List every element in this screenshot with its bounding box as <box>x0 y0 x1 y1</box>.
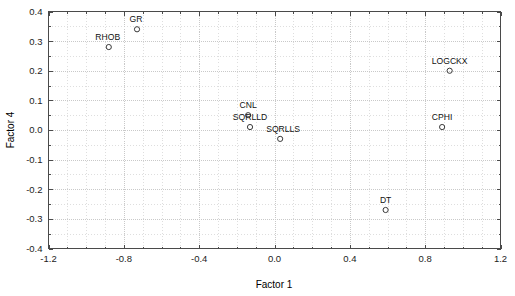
y-tick-label: -0.3 <box>26 213 42 224</box>
y-tick-label: 0.3 <box>29 36 42 47</box>
x-tick-label: 0.0 <box>268 253 281 264</box>
data-point-label: RHOB <box>95 32 120 42</box>
x-tick-label: -0.4 <box>191 253 207 264</box>
data-point-marker <box>134 27 139 32</box>
x-tick-label: -1.2 <box>40 253 56 264</box>
x-tick-label: 0.4 <box>343 253 356 264</box>
x-tick-label: 0.8 <box>419 253 432 264</box>
data-point-marker <box>447 68 452 73</box>
plot-canvas: -1.2-0.8-0.40.00.40.81.2 0.40.30.20.10.0… <box>0 0 515 296</box>
x-tick-label: -0.8 <box>116 253 132 264</box>
y-tick-label: 0.0 <box>29 124 42 135</box>
y-tick-label: -0.1 <box>26 154 42 165</box>
y-axis-title: Factor 4 <box>5 111 16 148</box>
data-point-marker <box>383 207 388 212</box>
data-point-label: CNL <box>240 100 257 110</box>
x-tick-label: 1.2 <box>494 253 507 264</box>
point-labels-group: RHOBGRCNLSQRLLDSQRLLSLOGCKXCPHIDT <box>95 14 467 205</box>
data-points-group <box>106 27 452 213</box>
data-point-label: CPHI <box>432 112 453 122</box>
y-tick-label: 0.2 <box>29 65 42 76</box>
x-axis-title: Factor 1 <box>256 279 293 290</box>
y-tick-label: -0.4 <box>26 243 42 254</box>
data-point-marker <box>278 136 283 141</box>
data-point-marker <box>106 44 111 49</box>
data-point-marker <box>247 124 252 129</box>
y-tick-label: -0.2 <box>26 184 42 195</box>
scatter-plot-figure: -1.2-0.8-0.40.00.40.81.2 0.40.30.20.10.0… <box>0 0 515 296</box>
data-point-label: DT <box>380 195 392 205</box>
data-point-label: LOGCKX <box>432 56 468 66</box>
data-point-label: SQRLLS <box>266 124 300 134</box>
y-tick-label: 0.1 <box>29 95 42 106</box>
x-axis-tick-labels: -1.2-0.8-0.40.00.40.81.2 <box>40 253 507 264</box>
data-point-label: SQRLLD <box>233 112 267 122</box>
data-point-marker <box>440 124 445 129</box>
data-point-label: GR <box>130 14 143 24</box>
y-axis-tick-labels: 0.40.30.20.10.0-0.1-0.2-0.3-0.4 <box>26 6 42 254</box>
y-tick-label: 0.4 <box>29 6 42 17</box>
